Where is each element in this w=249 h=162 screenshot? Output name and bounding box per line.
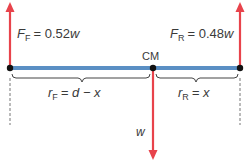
rear-force-label: FR= 0.48w [170, 26, 235, 43]
force-diagram: FF= 0.52w FR= 0.48w CM rF= d − x rR= x w [0, 0, 249, 162]
front-distance-label: rF= d − x [48, 85, 101, 102]
cm-point [150, 65, 156, 71]
weight-label: w [136, 125, 146, 139]
rear-point [237, 65, 243, 71]
weight-arrow [149, 68, 158, 160]
front-force-arrow [6, 2, 15, 68]
front-point [7, 65, 13, 71]
rear-force-arrow [236, 2, 245, 68]
front-distance-brace [12, 74, 150, 82]
rear-distance-label: rR= x [178, 85, 210, 102]
front-force-label: FF= 0.52w [17, 26, 81, 43]
cm-label: CM [142, 50, 159, 62]
rear-distance-brace [156, 74, 238, 82]
